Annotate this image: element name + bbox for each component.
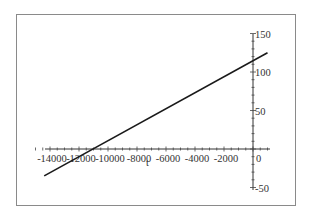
x-tick-label: -4000	[185, 153, 210, 164]
y-tick-label: 50	[255, 106, 266, 117]
y-tick-label: -50	[255, 183, 269, 194]
x-axis-title: t	[146, 157, 149, 168]
y-tick-label: 150	[255, 29, 271, 40]
x-tick-labels: -14000-12000-10000-8000-6000-4000-20000	[37, 153, 261, 164]
line-chart: -14000-12000-10000-8000-6000-4000-20000 …	[0, 0, 313, 218]
x-tick-label: -6000	[156, 153, 181, 164]
y-tick-labels: 15010050-50	[255, 29, 271, 194]
y-tick-label: 100	[255, 67, 271, 78]
x-tick-label: -14000	[37, 153, 67, 164]
x-tick-label: -12000	[66, 153, 96, 164]
x-tick-label: -10000	[95, 153, 125, 164]
x-tick-label: -2000	[214, 153, 239, 164]
x-tick-label: 0	[256, 153, 261, 164]
